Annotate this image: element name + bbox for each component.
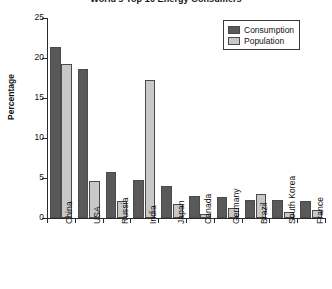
legend-swatch-population-icon bbox=[228, 37, 240, 45]
y-tick-label: 15 bbox=[35, 92, 44, 102]
bar bbox=[161, 186, 172, 218]
x-axis-label: South Korea bbox=[287, 176, 297, 224]
x-tick-mark bbox=[297, 218, 298, 223]
y-tick-label: 5 bbox=[39, 172, 44, 182]
legend-item-population: Population bbox=[228, 35, 294, 46]
bar bbox=[245, 200, 256, 218]
x-tick-mark bbox=[130, 218, 131, 223]
bar bbox=[300, 201, 311, 218]
y-axis-title: Percentage bbox=[6, 67, 16, 127]
bar bbox=[189, 196, 200, 218]
bar bbox=[217, 197, 228, 218]
x-tick-mark bbox=[269, 218, 270, 223]
x-tick-mark bbox=[47, 218, 48, 223]
x-tick-mark bbox=[103, 218, 104, 223]
x-axis-label: Canada bbox=[203, 194, 213, 224]
x-axis-label: China bbox=[64, 201, 74, 224]
bar bbox=[78, 69, 89, 218]
x-axis-label: India bbox=[148, 205, 158, 224]
x-axis-label: USA bbox=[92, 206, 102, 224]
x-tick-mark bbox=[214, 218, 215, 223]
y-tick-label: 20 bbox=[35, 52, 44, 62]
bar bbox=[61, 64, 72, 218]
x-tick-mark bbox=[325, 218, 326, 223]
x-axis-label: Japan bbox=[176, 200, 186, 224]
bar bbox=[145, 80, 156, 218]
chart-title: World's Top 10 Energy Consumers bbox=[0, 0, 332, 4]
y-tick-label: 25 bbox=[35, 12, 44, 22]
y-tick-label: 0 bbox=[39, 212, 44, 222]
chart-legend: Consumption Population bbox=[223, 20, 300, 50]
x-axis-label: France bbox=[315, 197, 325, 224]
legend-label-population: Population bbox=[244, 36, 284, 46]
x-axis-label: Russia bbox=[120, 197, 130, 224]
legend-label-consumption: Consumption bbox=[244, 25, 294, 35]
legend-swatch-consumption-icon bbox=[228, 26, 240, 34]
bar bbox=[272, 200, 283, 218]
bar bbox=[50, 47, 61, 218]
y-tick-label: 10 bbox=[35, 132, 44, 142]
x-axis-label: Brazil bbox=[259, 202, 269, 224]
x-tick-mark bbox=[186, 218, 187, 223]
x-tick-mark bbox=[242, 218, 243, 223]
bar bbox=[106, 172, 117, 218]
y-axis-line bbox=[47, 18, 48, 219]
x-axis-label: Germany bbox=[231, 188, 241, 224]
legend-item-consumption: Consumption bbox=[228, 24, 294, 35]
bar bbox=[133, 180, 144, 218]
x-tick-mark bbox=[158, 218, 159, 223]
bar-chart: World's Top 10 Energy Consumers Percenta… bbox=[0, 0, 332, 289]
x-tick-mark bbox=[75, 218, 76, 223]
